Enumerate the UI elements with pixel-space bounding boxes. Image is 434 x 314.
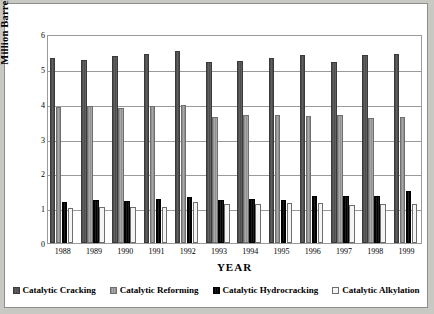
bar xyxy=(81,60,86,243)
bar xyxy=(281,200,286,243)
bar xyxy=(380,204,385,243)
bar xyxy=(243,115,248,243)
bar-group xyxy=(236,36,267,243)
bar-group xyxy=(361,36,392,243)
bar-group xyxy=(392,36,423,243)
bar xyxy=(181,105,186,243)
y-tick-label: 2 xyxy=(19,170,45,179)
chart-figure: Million Barrels per Day 0123456 19881989… xyxy=(4,3,428,308)
x-axis-title: YEAR xyxy=(47,261,422,273)
y-tick-label: 6 xyxy=(19,31,45,40)
bar xyxy=(406,191,411,243)
x-tick-label: 1995 xyxy=(273,247,289,256)
bar xyxy=(331,62,336,243)
bar xyxy=(206,62,211,243)
y-axis-title: Million Barrels per Day xyxy=(0,0,10,94)
bar-group xyxy=(111,36,142,243)
bar xyxy=(156,199,161,243)
bar xyxy=(312,196,317,243)
bar xyxy=(62,202,67,243)
chart-legend: Catalytic CrackingCatalytic ReformingCat… xyxy=(5,285,427,295)
bar xyxy=(343,196,348,243)
y-tick-label: 3 xyxy=(19,135,45,144)
bar xyxy=(275,115,280,243)
bar xyxy=(130,207,135,243)
bar xyxy=(68,208,73,243)
bar xyxy=(255,204,260,243)
x-axis-tick-labels: 1988198919901991199219931994199519961997… xyxy=(47,245,422,261)
bar xyxy=(349,205,354,243)
legend-item[interactable]: Catalytic Cracking xyxy=(13,285,96,295)
legend-item[interactable]: Catalytic Alkylation xyxy=(332,285,419,295)
bar-group xyxy=(173,36,204,243)
bar xyxy=(150,106,155,243)
bar xyxy=(162,207,167,243)
bar xyxy=(93,200,98,243)
legend-label: Catalytic Reforming xyxy=(120,285,199,295)
y-tick-label: 4 xyxy=(19,100,45,109)
bar xyxy=(300,55,305,243)
bar xyxy=(287,203,292,243)
bar xyxy=(124,201,129,243)
legend-item[interactable]: Catalytic Reforming xyxy=(110,285,199,295)
bar xyxy=(56,107,61,243)
legend-swatch-icon xyxy=(332,287,339,294)
x-tick-label: 1988 xyxy=(55,247,71,256)
bar xyxy=(412,204,417,243)
x-tick-label: 1991 xyxy=(148,247,164,256)
legend-item[interactable]: Catalytic Hydrocracking xyxy=(213,285,319,295)
bar xyxy=(87,106,92,243)
bar xyxy=(249,199,254,243)
x-tick-label: 1996 xyxy=(305,247,321,256)
bar-group xyxy=(142,36,173,243)
legend-label: Catalytic Alkylation xyxy=(342,285,419,295)
x-tick-label: 1990 xyxy=(117,247,133,256)
y-axis-tick-labels: 0123456 xyxy=(15,35,45,244)
bar-group xyxy=(79,36,110,243)
legend-label: Catalytic Cracking xyxy=(23,285,96,295)
bar xyxy=(337,115,342,243)
bar-group xyxy=(298,36,329,243)
bar xyxy=(374,196,379,243)
bar xyxy=(224,204,229,243)
bar xyxy=(144,54,149,243)
plot-area xyxy=(47,35,422,244)
bar-group xyxy=(204,36,235,243)
y-tick-label: 0 xyxy=(19,240,45,249)
bar xyxy=(400,117,405,243)
bar-group xyxy=(329,36,360,243)
bar xyxy=(269,58,274,243)
x-tick-label: 1999 xyxy=(398,247,414,256)
bar xyxy=(112,56,117,243)
x-tick-label: 1997 xyxy=(336,247,352,256)
bar xyxy=(306,116,311,243)
y-tick-label: 5 xyxy=(19,65,45,74)
legend-swatch-icon xyxy=(213,287,220,294)
bar-group xyxy=(267,36,298,243)
legend-label: Catalytic Hydrocracking xyxy=(223,285,319,295)
x-tick-label: 1992 xyxy=(180,247,196,256)
bar xyxy=(99,207,104,243)
bar xyxy=(50,58,55,243)
bar xyxy=(368,118,373,243)
x-tick-label: 1993 xyxy=(211,247,227,256)
bar xyxy=(218,200,223,243)
x-tick-label: 1998 xyxy=(367,247,383,256)
bar xyxy=(212,117,217,243)
y-tick-label: 1 xyxy=(19,205,45,214)
bar xyxy=(175,51,180,243)
bar xyxy=(193,202,198,243)
bar xyxy=(318,203,323,243)
x-tick-label: 1989 xyxy=(86,247,102,256)
bar xyxy=(362,55,367,243)
bar-group xyxy=(48,36,79,243)
legend-swatch-icon xyxy=(13,287,20,294)
bar xyxy=(237,61,242,243)
bar xyxy=(118,108,123,243)
legend-swatch-icon xyxy=(110,287,117,294)
bar xyxy=(394,54,399,243)
x-tick-label: 1994 xyxy=(242,247,258,256)
bar xyxy=(187,197,192,243)
